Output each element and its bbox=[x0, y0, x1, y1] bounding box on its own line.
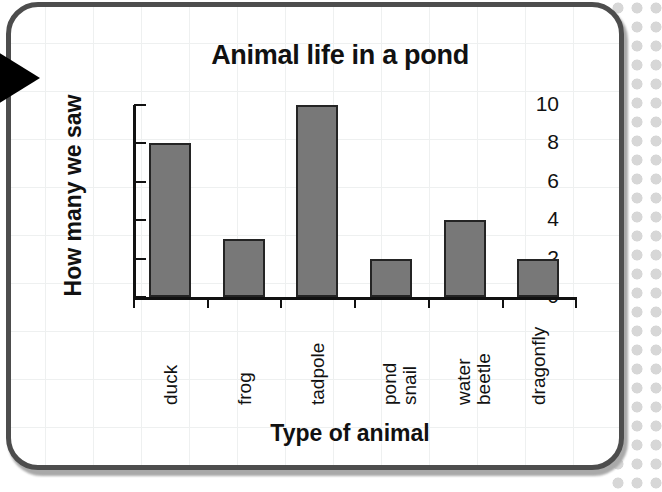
x-axis-title: Type of animal bbox=[150, 420, 550, 447]
y-tick-label: 10 bbox=[515, 93, 559, 114]
x-category-label-line: snail bbox=[400, 363, 420, 405]
y-tick-mark bbox=[134, 104, 146, 106]
worksheet-page: Animal life in a pond How many we saw Ty… bbox=[0, 0, 662, 492]
x-tick-mark bbox=[428, 297, 430, 308]
x-category-label: waterbeetle bbox=[454, 353, 494, 405]
x-category-label: tadpole bbox=[308, 343, 327, 405]
x-tick-mark bbox=[502, 297, 504, 308]
x-category-label: pondsnail bbox=[380, 363, 420, 405]
bar bbox=[370, 259, 412, 297]
bar bbox=[296, 105, 338, 297]
x-category-label-line: water bbox=[454, 353, 474, 405]
y-tick-label: 6 bbox=[515, 170, 559, 191]
y-axis-title: How many we saw bbox=[60, 71, 87, 321]
bar bbox=[223, 239, 265, 297]
bar bbox=[149, 143, 191, 297]
bar bbox=[517, 259, 559, 297]
x-tick-mark bbox=[280, 297, 282, 308]
x-category-label-line: pond bbox=[380, 363, 400, 405]
x-category-label-line: duck bbox=[161, 365, 180, 405]
bar bbox=[444, 220, 486, 297]
pointer-triangle-icon bbox=[0, 52, 40, 104]
y-tick-mark bbox=[134, 142, 146, 144]
x-category-label: duck bbox=[161, 365, 180, 405]
bar-chart: Animal life in a pond How many we saw Ty… bbox=[0, 0, 662, 492]
x-category-label-line: frog bbox=[235, 372, 254, 405]
x-category-label: dragonfly bbox=[529, 327, 548, 405]
y-tick-mark bbox=[134, 296, 146, 298]
x-tick-mark bbox=[133, 297, 135, 308]
x-category-label-line: beetle bbox=[474, 353, 494, 405]
plot-area: 0246810 bbox=[133, 105, 575, 297]
x-tick-mark bbox=[207, 297, 209, 308]
y-tick-mark bbox=[134, 258, 146, 260]
y-tick-mark bbox=[134, 181, 146, 183]
y-tick-label: 4 bbox=[515, 208, 559, 229]
x-category-label-line: dragonfly bbox=[529, 327, 548, 405]
chart-title: Animal life in a pond bbox=[120, 40, 560, 71]
y-tick-mark bbox=[134, 219, 146, 221]
x-category-label: frog bbox=[235, 372, 254, 405]
x-tick-mark bbox=[354, 297, 356, 308]
x-category-label-line: tadpole bbox=[308, 343, 327, 405]
y-axis-line bbox=[133, 105, 136, 298]
y-tick-label: 8 bbox=[515, 131, 559, 152]
x-tick-mark bbox=[575, 297, 577, 308]
